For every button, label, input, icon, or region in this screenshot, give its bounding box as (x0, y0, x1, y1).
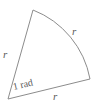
radius-arc-label: r (72, 26, 76, 37)
radius-bottom-label: r (53, 91, 57, 102)
circular-sector-figure: r r r 1 rad (0, 0, 103, 109)
sector-outline-svg (0, 0, 103, 109)
radius-left-label: r (3, 49, 7, 60)
